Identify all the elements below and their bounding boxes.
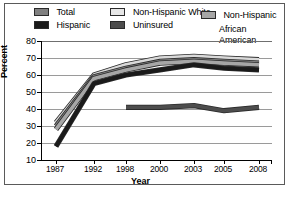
chart-legend: Total Non-Hispanic White Hispanic Uninsu… bbox=[34, 6, 282, 34]
legend-item-non-hispanic-african-american: Non-Hispanic African American bbox=[201, 6, 283, 46]
x-axis-title: Year bbox=[0, 176, 281, 186]
legend-swatch-icon-total bbox=[34, 8, 49, 16]
y-tick-label-10: 10 bbox=[14, 156, 36, 165]
legend-item-uninsured: Uninsured bbox=[110, 19, 173, 30]
chart-figure: Total Non-Hispanic White Hispanic Uninsu… bbox=[0, 0, 290, 203]
legend-label-hispanic: Hispanic bbox=[56, 20, 90, 31]
legend-swatch-icon-non-hispanic-african-american bbox=[201, 11, 216, 19]
legend-item-hispanic: Hispanic bbox=[34, 19, 106, 30]
x-tick-label-2000: 2000 bbox=[142, 165, 176, 174]
y-axis-title: Percent bbox=[0, 45, 9, 78]
legend-swatch-icon-non-hispanic-white bbox=[110, 8, 125, 16]
x-tick-label-1998: 1998 bbox=[108, 165, 142, 174]
x-tick-label-1987: 1987 bbox=[38, 165, 72, 174]
y-tick-label-30: 30 bbox=[14, 122, 36, 131]
plot-area bbox=[41, 41, 272, 161]
x-tick-label-2008: 2008 bbox=[241, 165, 275, 174]
legend-label-uninsured: Uninsured bbox=[133, 20, 173, 31]
legend-label-non-hispanic-african-american-line1: Non-Hispanic bbox=[223, 10, 276, 21]
legend-row-1: Total Non-Hispanic White bbox=[34, 6, 211, 17]
legend-swatch-icon-hispanic bbox=[34, 21, 49, 29]
x-tick-label-1992: 1992 bbox=[76, 165, 110, 174]
x-axis-end-mark bbox=[271, 160, 272, 164]
legend-label-non-hispanic-white: Non-Hispanic White bbox=[133, 7, 211, 18]
data-series-layer bbox=[42, 41, 272, 160]
y-tick-label-20: 20 bbox=[14, 139, 36, 148]
y-tick-label-50: 50 bbox=[14, 88, 36, 97]
legend-item-total: Total bbox=[34, 6, 106, 17]
legend-swatch-icon-uninsured bbox=[110, 21, 125, 29]
y-tick-label-70: 70 bbox=[14, 54, 36, 63]
y-tick-label-60: 60 bbox=[14, 71, 36, 80]
legend-label-total: Total bbox=[56, 7, 75, 18]
x-tick-label-2003: 2003 bbox=[176, 165, 210, 174]
y-tick-label-80: 80 bbox=[14, 37, 36, 46]
legend-row-2: Hispanic Uninsured bbox=[34, 19, 173, 30]
x-tick-label-2005: 2005 bbox=[206, 165, 240, 174]
legend-item-non-hispanic-white: Non-Hispanic White bbox=[110, 6, 210, 17]
y-tick-label-40: 40 bbox=[14, 105, 36, 114]
